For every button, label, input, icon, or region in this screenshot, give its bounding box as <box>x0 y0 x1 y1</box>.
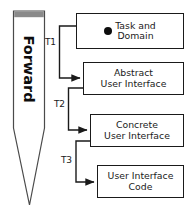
node-abstract-user-interface-label: Abstract User Interface <box>101 68 167 89</box>
edge-label-t3: T3 <box>61 155 72 165</box>
node-task-and-domain-label: Task and Domain <box>115 21 156 42</box>
forward-arrow-label: Forward <box>21 35 37 102</box>
node-concrete-user-interface-label: Concrete User Interface <box>104 120 170 141</box>
bullet-dot-icon <box>104 27 112 35</box>
node-user-interface-code-label: User Interface Code <box>108 171 174 192</box>
node-abstract-user-interface[interactable]: Abstract User Interface <box>83 62 184 95</box>
node-user-interface-code-inner: User Interface Code <box>106 171 176 192</box>
edge-label-t2: T2 <box>54 99 65 109</box>
diagram-canvas: Forward Task and Domain Abstract User In… <box>0 0 190 214</box>
node-task-and-domain-inner: Task and Domain <box>102 21 158 42</box>
node-concrete-user-interface-inner: Concrete User Interface <box>102 120 172 141</box>
edge-t3-connector <box>76 141 94 182</box>
node-user-interface-code[interactable]: User Interface Code <box>97 165 184 198</box>
node-concrete-user-interface[interactable]: Concrete User Interface <box>90 114 184 147</box>
node-task-and-domain[interactable]: Task and Domain <box>76 13 184 49</box>
edge-label-t1: T1 <box>45 37 56 47</box>
node-abstract-user-interface-inner: Abstract User Interface <box>99 68 169 89</box>
forward-arrow-label-wrap: Forward <box>13 14 45 124</box>
